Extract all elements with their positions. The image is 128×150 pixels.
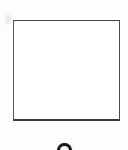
scanned-page-crop	[0, 0, 128, 150]
figure-frame-interior	[14, 21, 119, 119]
scan-smudge-artifact	[4, 12, 13, 26]
clipped-caption-glyph	[0, 140, 128, 150]
caption-glyph-counter	[60, 146, 69, 150]
empty-figure-frame	[13, 20, 120, 121]
